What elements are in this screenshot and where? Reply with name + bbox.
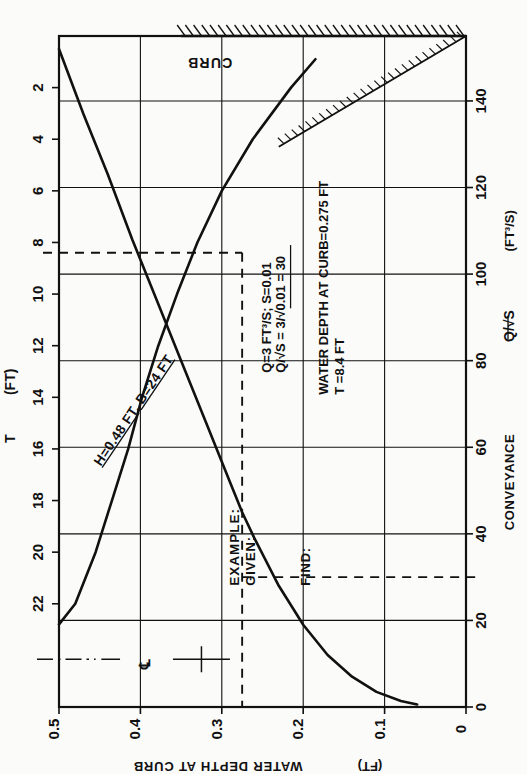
paper-background — [0, 0, 527, 774]
tick-label-conveyance: 120 — [472, 175, 489, 200]
tick-label-spread: 10 — [29, 286, 46, 303]
example-find-heading: FIND: — [298, 547, 313, 586]
tick-label-conveyance: 100 — [472, 262, 489, 287]
axis-title-spread: T — [2, 434, 18, 443]
tick-label-spread: 20 — [29, 544, 46, 561]
axis-units-conveyance: (FT³/S) — [502, 210, 517, 251]
tick-label-depth: 0.3 — [208, 719, 225, 740]
tick-label-conveyance: 140 — [472, 88, 489, 113]
axis-units-spread: (FT) — [2, 369, 18, 395]
axis-symbol-conveyance: Q/√S — [501, 310, 517, 342]
nomograph-svg: 246810121416182022T(FT)02040608010012014… — [0, 0, 527, 774]
tick-label-spread: 6 — [29, 187, 46, 195]
tick-label-depth: 0.4 — [126, 718, 143, 740]
figure-canvas: 246810121416182022T(FT)02040608010012014… — [0, 0, 527, 774]
tick-label-depth: 0.2 — [289, 719, 306, 740]
centerline-symbol: ℄ — [136, 659, 153, 670]
tick-label-spread: 14 — [29, 388, 46, 405]
tick-label-depth: 0 — [452, 725, 469, 733]
tick-label-conveyance: 80 — [472, 352, 489, 369]
tick-label-spread: 12 — [29, 337, 46, 354]
tick-label-depth: 0.5 — [45, 719, 62, 740]
example-find-line-1: WATER DEPTH AT CURB=0.275 FT — [316, 181, 331, 395]
tick-label-spread: 16 — [29, 441, 46, 458]
tick-label-spread: 2 — [29, 83, 46, 91]
tick-label-spread: 18 — [29, 492, 46, 509]
example-given-line-2: Q/√S = 3/√0.01 = 30 — [273, 256, 288, 373]
tick-label-conveyance: 20 — [472, 612, 489, 629]
tick-label-conveyance: 0 — [472, 703, 489, 711]
tick-label-conveyance: 40 — [472, 525, 489, 542]
tick-label-spread: 4 — [29, 134, 46, 143]
curb-label: CURB — [187, 55, 232, 71]
axis-units-depth: (FT) — [358, 759, 383, 774]
tick-label-spread: 22 — [29, 595, 46, 612]
example-find-line-2: T =8.4 FT — [332, 338, 347, 395]
tick-label-spread: 8 — [29, 238, 46, 246]
example-given-heading: GIVEN: — [243, 536, 258, 586]
axis-title-depth: WATER DEPTH AT CURB — [133, 759, 303, 774]
tick-label-conveyance: 60 — [472, 439, 489, 456]
axis-title-conveyance: CONVEYANCE — [502, 434, 517, 531]
example-heading: EXAMPLE: — [227, 508, 242, 586]
tick-label-depth: 0.1 — [371, 719, 388, 740]
